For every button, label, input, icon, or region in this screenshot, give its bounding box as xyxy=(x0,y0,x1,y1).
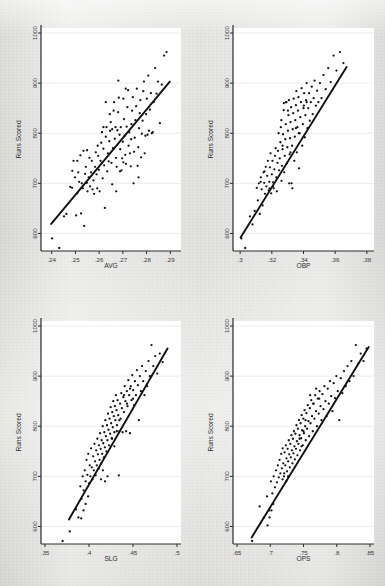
data-point xyxy=(124,400,126,402)
data-point xyxy=(116,430,118,432)
data-point xyxy=(292,128,294,130)
data-point xyxy=(249,215,251,217)
data-point xyxy=(313,79,315,81)
data-point xyxy=(136,369,138,371)
data-point xyxy=(306,101,308,103)
data-point xyxy=(290,434,292,436)
data-point xyxy=(122,141,124,143)
data-point xyxy=(141,365,143,367)
x-tick-label: .32 xyxy=(268,256,277,263)
data-point xyxy=(260,181,262,183)
data-point xyxy=(135,394,137,396)
data-point xyxy=(293,445,295,447)
data-point xyxy=(287,448,289,450)
data-point xyxy=(294,433,296,435)
data-point xyxy=(285,123,287,125)
data-point xyxy=(269,152,271,154)
data-point xyxy=(304,419,306,421)
data-point xyxy=(101,439,103,441)
data-point xyxy=(278,459,280,461)
data-point xyxy=(118,419,120,421)
data-point xyxy=(265,185,267,187)
data-point xyxy=(101,453,103,455)
data-point xyxy=(309,394,311,396)
data-point xyxy=(115,157,117,159)
data-point xyxy=(91,466,93,468)
data-point xyxy=(124,385,126,387)
data-point xyxy=(135,105,137,107)
data-point xyxy=(283,171,285,173)
data-point xyxy=(305,412,307,414)
data-point xyxy=(322,74,324,76)
data-point xyxy=(99,432,101,434)
data-point xyxy=(106,439,108,441)
data-point xyxy=(136,87,138,89)
data-point xyxy=(338,419,340,421)
data-point xyxy=(281,478,283,480)
data-point xyxy=(87,453,89,455)
data-point xyxy=(139,112,141,114)
data-point xyxy=(283,451,285,453)
data-point xyxy=(111,183,113,185)
y-tick-label: 1000 xyxy=(32,319,39,333)
data-point xyxy=(144,135,146,137)
data-point xyxy=(154,67,156,69)
data-point xyxy=(86,190,88,192)
data-point xyxy=(155,93,157,95)
data-point xyxy=(159,352,161,354)
data-point xyxy=(312,403,314,405)
data-point xyxy=(265,166,267,168)
data-point xyxy=(102,469,104,471)
data-point xyxy=(96,464,98,466)
data-point xyxy=(118,97,120,99)
data-point xyxy=(156,372,158,374)
scatter-chart-slg: 6007008009001000.35.4.45.5SLGRuns Scored xyxy=(0,293,192,586)
data-point xyxy=(337,390,339,392)
data-point xyxy=(126,390,128,392)
data-point xyxy=(297,110,299,112)
data-point xyxy=(333,382,335,384)
data-point xyxy=(330,81,332,83)
data-point xyxy=(303,432,305,434)
data-point xyxy=(270,192,272,194)
data-point xyxy=(109,113,111,115)
panel-avg: 6007008009001000.24.25.26.27.28.29AVGRun… xyxy=(0,0,192,293)
data-point xyxy=(137,146,139,148)
data-point xyxy=(93,443,95,445)
data-point xyxy=(316,425,318,427)
data-point xyxy=(310,101,312,103)
y-tick-label: 700 xyxy=(32,471,39,482)
data-point xyxy=(106,475,108,477)
data-point xyxy=(115,394,117,396)
data-point xyxy=(292,452,294,454)
data-point xyxy=(152,365,154,367)
x-tick-label: .36 xyxy=(331,256,340,263)
data-point xyxy=(132,398,134,400)
data-point xyxy=(117,414,119,416)
data-point xyxy=(287,460,289,462)
x-tick-label: .8 xyxy=(334,549,340,556)
data-point xyxy=(317,101,319,103)
x-tick-label: .4 xyxy=(86,549,92,556)
x-tick-label: .26 xyxy=(95,256,104,263)
panel-slg: 6007008009001000.35.4.45.5SLGRuns Scored xyxy=(0,293,192,586)
data-point xyxy=(98,190,100,192)
data-point xyxy=(308,435,310,437)
data-point xyxy=(342,62,344,64)
data-point xyxy=(319,82,321,84)
data-point xyxy=(306,428,308,430)
data-point xyxy=(147,74,149,76)
data-point xyxy=(284,464,286,466)
data-point xyxy=(320,97,322,99)
data-point xyxy=(261,188,263,190)
data-point xyxy=(283,472,285,474)
data-point xyxy=(102,148,104,150)
data-point xyxy=(79,154,81,156)
data-point xyxy=(110,162,112,164)
data-point xyxy=(141,120,143,122)
data-point xyxy=(267,160,269,162)
x-tick-label: .29 xyxy=(166,256,175,263)
data-point xyxy=(298,419,300,421)
data-point xyxy=(296,454,298,456)
data-point xyxy=(259,213,261,215)
